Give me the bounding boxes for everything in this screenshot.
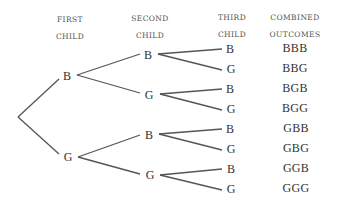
header-second-child: SECOND CHILD	[126, 10, 174, 44]
header-line: SECOND	[126, 10, 174, 27]
node-second-b: B	[144, 49, 152, 61]
header-third-child: THIRD CHILD	[212, 9, 252, 43]
header-combined-outcomes: COMBINED OUTCOMES	[265, 9, 325, 43]
node-second-g: G	[145, 89, 154, 101]
node-first-b: B	[63, 70, 71, 82]
outcome: BBG	[282, 62, 308, 74]
header-line: THIRD	[212, 9, 252, 26]
node-third-b: B	[226, 83, 234, 95]
header-line: COMBINED	[265, 9, 325, 26]
header-line: FIRST	[50, 11, 90, 28]
node-second-g: G	[146, 169, 155, 181]
header-line: CHILD	[50, 28, 90, 45]
node-third-g: G	[227, 183, 236, 195]
node-third-g: G	[227, 103, 236, 115]
node-third-b: B	[226, 123, 234, 135]
outcome: BBB	[283, 42, 308, 54]
outcome: GBB	[283, 122, 309, 134]
header-first-child: FIRST CHILD	[50, 11, 90, 45]
outcome: BGG	[282, 102, 308, 114]
node-third-g: G	[227, 143, 236, 155]
outcome: GGB	[283, 162, 309, 174]
header-line: CHILD	[126, 27, 174, 44]
node-third-b: B	[227, 163, 235, 175]
node-first-g: G	[64, 151, 73, 163]
node-third-g: G	[227, 63, 236, 75]
node-third-b: B	[226, 43, 234, 55]
outcome: GGG	[283, 182, 310, 194]
outcome: GBG	[283, 142, 309, 154]
header-line: CHILD	[212, 26, 252, 43]
outcome: BGB	[282, 82, 308, 94]
node-second-b: B	[145, 129, 153, 141]
